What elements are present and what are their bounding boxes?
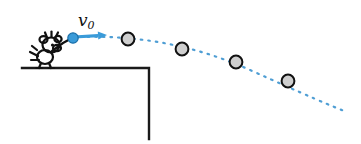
launch-ball: [68, 33, 78, 43]
thrower-torso: [37, 50, 53, 64]
ledge-outline: [22, 68, 149, 139]
figure-canvas: [0, 0, 361, 144]
stick-figure-thrower: [30, 32, 72, 69]
parabolic-dotted-path: [80, 37, 347, 112]
trajectory-group: [80, 37, 347, 112]
trajectory-ball: [122, 33, 135, 46]
thrower-back-tuft: [32, 46, 37, 50]
velocity-subscript: 0: [88, 19, 95, 32]
projectile-motion-figure: v0: [0, 0, 361, 144]
trajectory-ball: [230, 56, 243, 69]
trajectory-ball: [282, 75, 295, 88]
initial-velocity-arrow: [74, 32, 107, 40]
ledge-platform: [22, 68, 149, 139]
trajectory-ball: [176, 43, 189, 56]
velocity-symbol: v: [78, 10, 88, 30]
initial-velocity-label: v0: [78, 12, 95, 31]
velocity-arrow-head: [98, 32, 107, 40]
